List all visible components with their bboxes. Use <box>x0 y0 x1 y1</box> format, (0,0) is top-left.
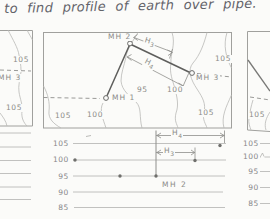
elevation-tick-100-right: 100 <box>241 153 260 161</box>
contour-label-100: 100 <box>166 86 184 94</box>
elevation-tick-85: 85 <box>50 204 70 212</box>
plan-dim-h4 <box>127 55 190 89</box>
contour-label-105: 105 <box>214 55 232 63</box>
elevation-tick-85-right: 85 <box>241 200 260 208</box>
elevation-tick-100: 100 <box>50 156 70 164</box>
elevation-tick-90: 90 <box>50 189 70 197</box>
profile-dimension-label-h4: H4 <box>171 129 183 140</box>
elevation-tick-95: 95 <box>50 173 70 181</box>
drawing-linework <box>0 0 270 219</box>
scanned-drawing-page: to find profile of earth over pipe. 105 … <box>0 0 270 219</box>
elevation-tick-105-right: 105 <box>241 140 260 148</box>
contour-label-100: 100 <box>86 111 104 119</box>
contour-label-105: 105 <box>12 56 30 64</box>
elevation-tick-95-right: 95 <box>241 168 260 176</box>
contour-label-105: 105 <box>248 111 266 119</box>
profile-dimension-label-h3: H3 <box>163 147 175 158</box>
elevation-tick-90-right: 90 <box>241 184 260 192</box>
profile-dim-h3 <box>156 148 195 160</box>
contour-label-105: 105 <box>5 104 23 112</box>
mh3-marker <box>190 71 195 76</box>
elevation-tick-105: 105 <box>50 140 70 148</box>
mh1-marker <box>104 96 109 101</box>
contour-label-105: 105 <box>197 109 215 117</box>
manhole-label-mh1: MH 1 <box>111 94 136 102</box>
profile-dim-h4 <box>156 131 225 144</box>
mh2-marker <box>128 41 133 46</box>
contour-label-105: 105 <box>54 112 72 120</box>
manhole-label-mh3-left: MH 3 <box>0 74 22 82</box>
manhole-label-mh2: MH 2 <box>107 33 132 41</box>
contour-label-95: 95 <box>136 86 149 94</box>
manhole-label-mh3: MH 3 <box>195 74 220 82</box>
pipe-line-right <box>248 60 270 91</box>
profile-mh2-label: MH 2 <box>161 181 188 189</box>
mh1-leader-dashed <box>44 98 101 99</box>
elevation-gridlines <box>73 144 226 208</box>
profile-panel-left <box>0 133 31 200</box>
profile-panel-center <box>73 131 226 208</box>
ground-points <box>73 144 221 178</box>
